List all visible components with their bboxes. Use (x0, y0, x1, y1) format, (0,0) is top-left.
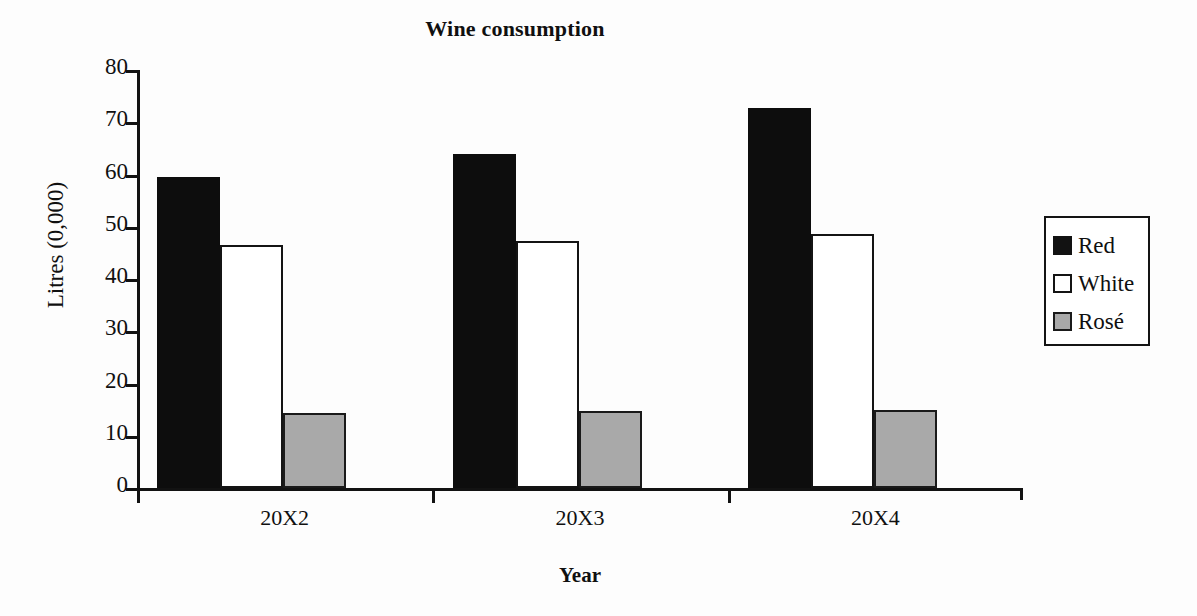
x-axis-end-cap (1020, 488, 1023, 500)
x-tick-origin (137, 489, 140, 503)
bar-ros-20X4 (874, 410, 937, 488)
bar-red-20X3 (453, 154, 516, 488)
y-tick-label: 70 (105, 107, 128, 130)
bar-ros-20X2 (283, 413, 346, 488)
x-category-label-20X3: 20X3 (432, 505, 727, 531)
legend-item-red: Red (1053, 226, 1148, 264)
y-axis-label: Litres (0,000) (43, 145, 69, 345)
rose-swatch-icon (1053, 312, 1072, 331)
y-tick-label: 0 (117, 473, 129, 496)
x-axis-label: Year (137, 563, 1023, 588)
legend-item-white: White (1053, 264, 1148, 302)
x-category-label-20X4: 20X4 (728, 505, 1023, 531)
bar-white-20X3 (516, 241, 579, 488)
x-tick-mark (432, 489, 435, 503)
x-tick-mark (728, 489, 731, 503)
bar-red-20X2 (157, 177, 220, 488)
legend-box: RedWhiteRosé (1044, 216, 1150, 346)
y-tick-label: 20 (105, 369, 128, 392)
x-category-label-20X2: 20X2 (137, 505, 432, 531)
bar-red-20X4 (748, 108, 811, 488)
white-swatch-icon (1053, 274, 1072, 293)
legend-item-rose: Rosé (1053, 302, 1148, 340)
y-tick-label: 50 (105, 212, 128, 235)
y-tick-label: 80 (105, 55, 128, 78)
bar-white-20X2 (220, 245, 283, 488)
red-swatch-icon (1053, 236, 1072, 255)
y-tick-label: 30 (105, 316, 128, 339)
y-tick-label: 10 (105, 421, 128, 444)
chart-canvas: Wine consumption Litres (0,000) 01020304… (0, 0, 1197, 616)
y-tick-label: 40 (105, 264, 128, 287)
legend-item-label: White (1078, 272, 1134, 295)
x-axis-line (137, 488, 1023, 491)
legend-item-label: Rosé (1078, 310, 1124, 333)
chart-title: Wine consumption (0, 16, 1030, 42)
bar-ros-20X3 (579, 411, 642, 488)
legend-item-label: Red (1078, 234, 1115, 257)
plot-area: 01020304050607080 (137, 70, 1023, 488)
y-tick-label: 60 (105, 160, 128, 183)
bar-white-20X4 (811, 234, 874, 488)
